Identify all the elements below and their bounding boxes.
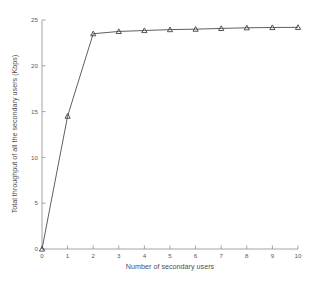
- y-axis-title: Total throughput of all the secondary us…: [10, 55, 19, 214]
- x-tick-label: 4: [143, 252, 147, 259]
- y-axis-tick-labels: 0510152025: [31, 16, 38, 252]
- y-axis-ticks: [42, 20, 46, 249]
- x-tick-label: 6: [194, 252, 198, 259]
- chart-figure: 0510152025 012345678910 Number of second…: [0, 0, 317, 282]
- x-tick-label: 8: [245, 252, 249, 259]
- x-axis-title: Number of secondary users: [126, 262, 215, 271]
- x-tick-label: 0: [40, 252, 44, 259]
- y-tick-label: 15: [31, 108, 38, 115]
- data-series-markers: [39, 25, 300, 251]
- x-tick-label: 5: [168, 252, 172, 259]
- x-tick-label: 1: [66, 252, 70, 259]
- y-tick-label: 25: [31, 16, 38, 23]
- y-tick-label: 10: [31, 154, 38, 161]
- x-tick-label: 9: [271, 252, 275, 259]
- data-series-line: [42, 27, 298, 249]
- y-tick-label: 0: [35, 245, 39, 252]
- x-tick-label: 7: [219, 252, 223, 259]
- x-axis-ticks: [42, 246, 298, 250]
- line-chart: 0510152025 012345678910 Number of second…: [0, 0, 317, 282]
- y-tick-label: 5: [35, 199, 39, 206]
- x-tick-label: 2: [91, 252, 95, 259]
- y-tick-label: 20: [31, 62, 38, 69]
- x-axis-tick-labels: 012345678910: [40, 252, 302, 259]
- x-tick-label: 10: [295, 252, 302, 259]
- x-tick-label: 3: [117, 252, 121, 259]
